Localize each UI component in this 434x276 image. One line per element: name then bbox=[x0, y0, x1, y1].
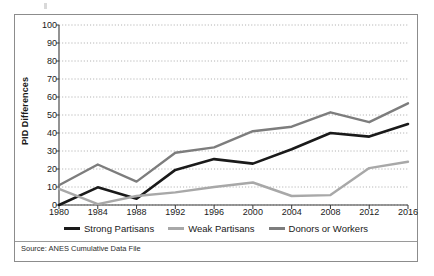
x-tick-label: 1980 bbox=[49, 207, 69, 217]
x-tick-label: 2016 bbox=[398, 207, 418, 217]
figure-root: PID Differences 0102030405060708090100 1… bbox=[0, 0, 434, 276]
legend-label: Weak Partisans bbox=[188, 223, 254, 234]
series-line-2 bbox=[59, 103, 408, 185]
x-tick-label: 2008 bbox=[320, 207, 340, 217]
source-divider bbox=[15, 241, 417, 242]
source-note: Source: ANES Cumulative Data File bbox=[21, 244, 141, 253]
x-tick-label: 1988 bbox=[127, 207, 147, 217]
legend-swatch-icon bbox=[269, 227, 285, 230]
scan-artifact bbox=[44, 3, 47, 9]
x-tick-label: 2000 bbox=[243, 207, 263, 217]
chart-frame: PID Differences 0102030405060708090100 1… bbox=[14, 14, 418, 262]
x-tick-label: 1996 bbox=[204, 207, 224, 217]
chart-legend: Strong PartisansWeak PartisansDonors or … bbox=[15, 223, 417, 234]
x-tick-label: 1984 bbox=[88, 207, 108, 217]
x-tick-label: 1992 bbox=[165, 207, 185, 217]
legend-item[interactable]: Weak Partisans bbox=[168, 223, 254, 234]
legend-swatch-icon bbox=[64, 227, 80, 230]
x-axis-tick-labels: 1980198419881992199620002004200820122016 bbox=[15, 207, 417, 221]
legend-swatch-icon bbox=[168, 227, 184, 230]
x-tick-label: 2012 bbox=[359, 207, 379, 217]
legend-item[interactable]: Donors or Workers bbox=[269, 223, 369, 234]
legend-label: Donors or Workers bbox=[289, 223, 369, 234]
series-line-1 bbox=[59, 162, 408, 204]
legend-item[interactable]: Strong Partisans bbox=[64, 223, 154, 234]
series-line-0 bbox=[59, 124, 408, 205]
legend-label: Strong Partisans bbox=[84, 223, 154, 234]
x-tick-label: 2004 bbox=[282, 207, 302, 217]
